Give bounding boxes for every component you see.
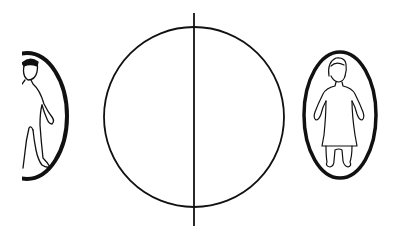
diagram-canvas [0,0,396,238]
background [0,0,396,238]
